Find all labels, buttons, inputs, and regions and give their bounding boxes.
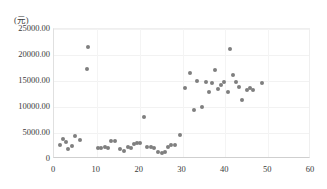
data-point — [78, 138, 82, 142]
data-point — [58, 143, 62, 147]
data-point — [260, 81, 264, 85]
x-axis-tick-label: 0 — [51, 164, 55, 174]
x-axis-tick-labels: 0102030405060 — [0, 164, 327, 184]
gridline-vertical — [268, 29, 269, 157]
data-point — [73, 134, 77, 138]
data-point — [226, 90, 230, 94]
plot-area — [53, 28, 310, 158]
data-point — [173, 143, 177, 147]
y-axis-tick-label: 10000.00 — [18, 101, 50, 111]
x-axis-tick-label: 60 — [306, 164, 315, 174]
gridline-horizontal — [54, 29, 309, 30]
data-point — [188, 71, 192, 75]
y-axis-tick-labels: 05000.0010000.0015000.0020000.0025000.00 — [0, 0, 50, 189]
x-axis-tick-label: 20 — [134, 164, 143, 174]
data-point — [234, 80, 238, 84]
data-point — [152, 146, 156, 150]
data-point — [192, 108, 196, 112]
data-point — [207, 90, 211, 94]
data-point — [122, 149, 126, 153]
scatter-chart: (元) 05000.0010000.0015000.0020000.002500… — [0, 0, 327, 189]
data-point — [142, 115, 146, 119]
data-point — [106, 146, 110, 150]
data-point — [213, 68, 217, 72]
gridline-vertical — [97, 29, 98, 157]
data-point — [200, 105, 204, 109]
gridline-horizontal — [54, 81, 309, 82]
data-point — [210, 81, 214, 85]
gridline-vertical — [140, 29, 141, 157]
gridline-horizontal — [54, 55, 309, 56]
data-point — [86, 45, 90, 49]
gridline-vertical — [183, 29, 184, 157]
data-point — [251, 88, 255, 92]
data-point — [195, 79, 199, 83]
y-axis-tick-label: 5000.00 — [22, 127, 50, 137]
y-axis-tick-label: 0 — [46, 153, 50, 163]
data-point — [240, 98, 244, 102]
x-axis-tick-label: 50 — [263, 164, 272, 174]
data-point — [113, 139, 117, 143]
data-point — [129, 146, 133, 150]
x-axis-tick-label: 40 — [220, 164, 229, 174]
data-point — [216, 87, 220, 91]
data-point — [183, 86, 187, 90]
data-point — [204, 80, 208, 84]
data-point — [178, 133, 182, 137]
data-point — [70, 144, 74, 148]
y-axis-tick-label: 15000.00 — [18, 75, 50, 85]
data-point — [228, 47, 232, 51]
data-point — [163, 150, 167, 154]
data-point — [231, 73, 235, 77]
data-point — [237, 85, 241, 89]
x-axis-tick-label: 30 — [177, 164, 186, 174]
data-point — [85, 67, 89, 71]
data-point — [64, 140, 68, 144]
gridline-horizontal — [54, 107, 309, 108]
x-axis-tick-label: 10 — [92, 164, 101, 174]
y-axis-tick-label: 25000.00 — [18, 23, 50, 33]
y-axis-tick-label: 20000.00 — [18, 49, 50, 59]
data-point — [138, 141, 142, 145]
